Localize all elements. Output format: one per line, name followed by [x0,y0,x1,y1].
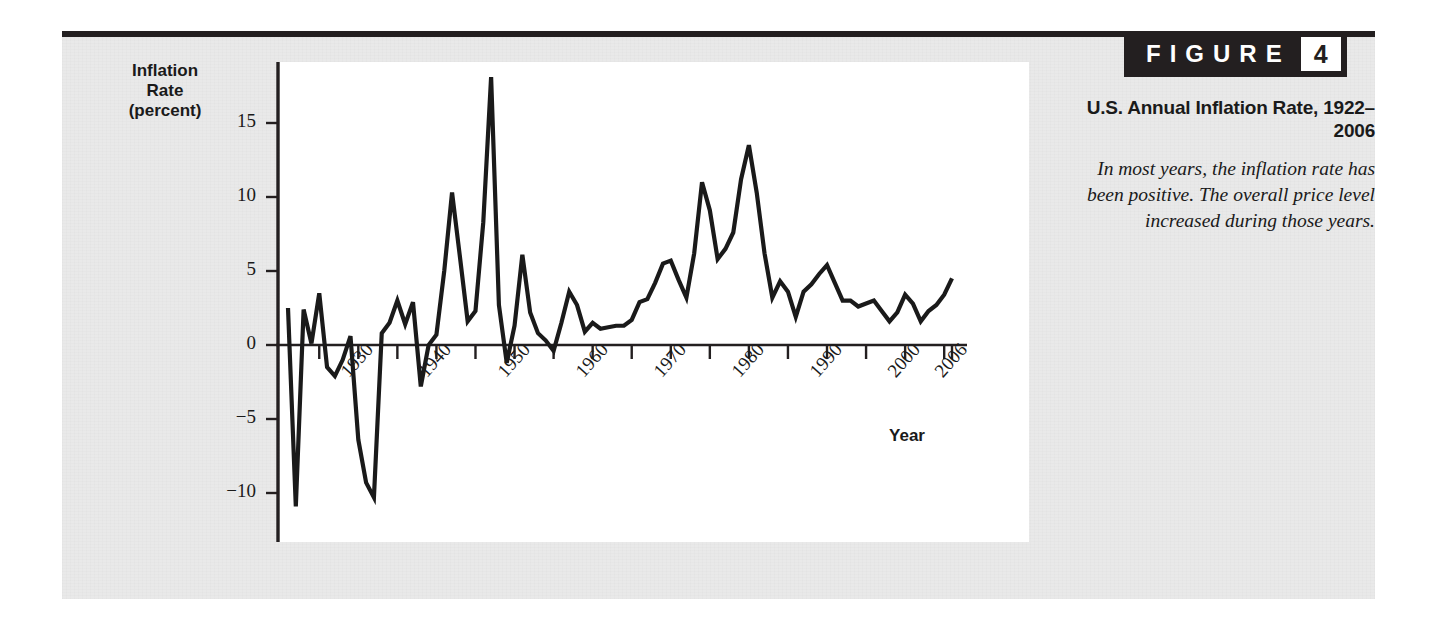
inflation-rate-line [288,77,952,506]
axes [276,62,967,542]
chart: InflationRate(percent) Year 151050−5−10 … [62,31,1062,593]
figure-caption-body: In most years, the inflation rate has be… [1080,156,1375,234]
figure-badge: FIGURE 4 [1124,31,1347,77]
y-tick-label: 15 [210,110,256,132]
axis-ticks [266,123,952,493]
figure-badge-number: 4 [1301,37,1341,71]
figure-caption-title: U.S. Annual Inflation Rate, 1922–2006 [1080,96,1375,142]
y-tick-label: −10 [210,480,256,502]
figure-caption-column: U.S. Annual Inflation Rate, 1922–2006 In… [1080,96,1375,234]
y-tick-label: 10 [210,184,256,206]
y-tick-label: 5 [210,258,256,280]
figure-container: FIGURE 4 U.S. Annual Inflation Rate, 192… [0,0,1433,636]
figure-badge-word: FIGURE [1146,42,1301,66]
y-tick-label: −5 [210,406,256,428]
y-tick-label: 0 [210,332,256,354]
